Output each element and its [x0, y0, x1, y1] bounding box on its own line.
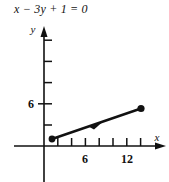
x-tick-label-12: 12: [121, 152, 133, 166]
line-endpoint-marker-right: [137, 105, 144, 112]
x-axis-arrowhead: [155, 143, 166, 150]
graph-figure: x − 3y + 1 = 0 y x 6: [0, 0, 169, 182]
y-tick-label-6: 6: [28, 97, 34, 111]
x-axis-label: x: [154, 131, 160, 143]
y-axis-arrowhead: [41, 26, 48, 37]
y-axis-label: y: [30, 23, 36, 35]
plotted-line-segment: [52, 109, 141, 140]
line-endpoint-marker-left: [49, 136, 56, 143]
coordinate-plot: y x 6 6 12: [0, 0, 169, 182]
x-tick-label-6: 6: [82, 152, 88, 166]
